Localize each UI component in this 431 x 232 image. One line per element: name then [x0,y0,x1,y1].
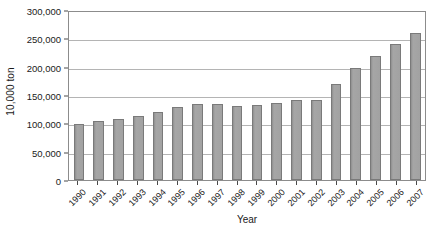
x-axis-tick-label: 1995 [166,187,187,208]
x-axis-tick-label: 1996 [186,187,207,208]
x-label-slot: 1993 [128,186,148,216]
x-axis-tick-label: 2004 [345,187,366,208]
x-axis-tick-mark [197,181,198,185]
x-label-slot: 2000 [267,186,287,216]
x-axis-tick-mark [137,181,138,185]
bar-slot [346,12,366,180]
x-axis-tick-mark [376,181,377,185]
x-label-slot: 2005 [366,186,386,216]
plot-area [68,11,426,181]
y-axis-title-text: 10,000 ton [5,67,16,115]
x-axis-tick-label: 2001 [285,187,306,208]
x-axis-tick-label: 2005 [365,187,386,208]
y-axis-tick-label: 0 [56,176,61,187]
x-label-slot: 1991 [88,186,108,216]
y-axis-tick-label: 300,000 [27,6,61,17]
x-axis-tick-label: 2000 [265,187,286,208]
bar-slot [109,12,129,180]
y-axis-tick-label: 200,000 [27,62,61,73]
bar[interactable] [212,104,223,181]
bar[interactable] [370,56,381,180]
bar-slot [287,12,307,180]
bar[interactable] [133,116,144,180]
bar[interactable] [271,103,282,180]
bar[interactable] [331,84,342,180]
bar-slot [267,12,287,180]
x-axis-tick-label: 2003 [325,187,346,208]
bar[interactable] [113,119,124,180]
x-axis-tick-mark [256,181,257,185]
x-label-slot: 1996 [187,186,207,216]
x-axis-tick-labels: 1990199119921993199419951996199719981999… [68,186,426,216]
y-axis-tick-label: 250,000 [27,34,61,45]
x-label-slot: 1992 [108,186,128,216]
x-axis-tick-mark [316,181,317,185]
bar-slot [128,12,148,180]
x-axis-tick-mark [396,181,397,185]
bar[interactable] [252,105,263,180]
bar-slot [168,12,188,180]
y-axis-title: 10,000 ton [2,0,18,182]
bar-slot [306,12,326,180]
x-axis-tick-mark [296,181,297,185]
bar-slot [207,12,227,180]
bar[interactable] [74,124,85,180]
bar[interactable] [93,121,104,180]
x-axis-tick-label: 2002 [305,187,326,208]
bars-container [69,12,425,180]
x-label-slot: 1998 [227,186,247,216]
y-axis-tick-mark [64,96,68,97]
y-axis-tick-mark [64,152,68,153]
y-axis-tick-label: 100,000 [27,119,61,130]
x-label-slot: 2004 [346,186,366,216]
y-axis-tick-label: 50,000 [32,147,61,158]
bar[interactable] [153,112,164,180]
bar-slot [188,12,208,180]
bar-slot [366,12,386,180]
bar[interactable] [410,33,421,180]
y-axis-tick-mark [64,67,68,68]
bar-slot [405,12,425,180]
x-axis-tick-label: 1993 [126,187,147,208]
x-axis-tick-label: 1990 [67,187,88,208]
x-axis-tick-label: 1998 [226,187,247,208]
bar[interactable] [192,104,203,181]
x-axis-tick-mark [276,181,277,185]
x-axis-tick-mark [416,181,417,185]
x-axis-tick-mark [157,181,158,185]
bar-slot [326,12,346,180]
bar[interactable] [390,44,401,180]
y-axis-tick-mark [64,181,68,182]
x-axis-title: Year [68,214,426,225]
bar-slot [89,12,109,180]
bar-slot [69,12,89,180]
bar[interactable] [350,68,361,180]
bar-slot [247,12,267,180]
x-axis-tick-label: 1997 [206,187,227,208]
x-axis-tick-label: 1992 [106,187,127,208]
x-axis-tick-label: 1991 [86,187,107,208]
y-axis-tick-labels: 050,000100,000150,000200,000250,000300,0… [18,10,64,181]
x-label-slot: 1990 [68,186,88,216]
bar[interactable] [172,107,183,180]
y-axis-tick-label: 150,000 [27,91,61,102]
y-axis-tick-mark [64,124,68,125]
y-axis-tick-mark [64,39,68,40]
bar[interactable] [291,100,302,180]
bar-slot [227,12,247,180]
y-axis-tick-mark [64,11,68,12]
x-label-slot: 1995 [167,186,187,216]
x-axis-tick-mark [97,181,98,185]
bar[interactable] [311,100,322,180]
x-label-slot: 2001 [287,186,307,216]
x-axis-tick-mark [77,181,78,185]
x-axis-tick-mark [336,181,337,185]
x-axis-tick-label: 1999 [246,187,267,208]
bar-slot [386,12,406,180]
x-label-slot: 2006 [386,186,406,216]
x-label-slot: 1994 [148,186,168,216]
x-axis-tick-mark [217,181,218,185]
bar[interactable] [232,106,243,180]
x-axis-tick-mark [117,181,118,185]
x-label-slot: 1997 [207,186,227,216]
